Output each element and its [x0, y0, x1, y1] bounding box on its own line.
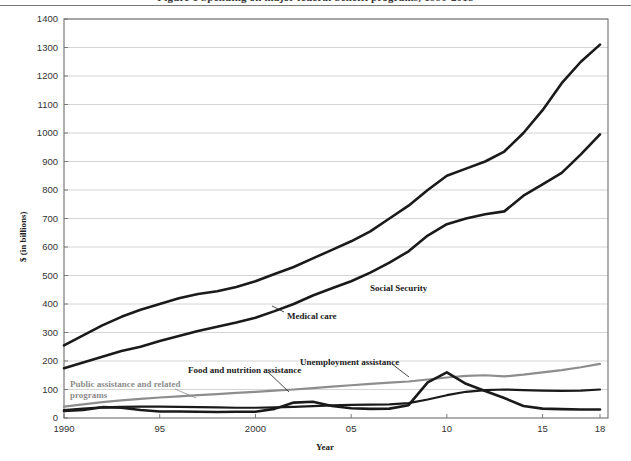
- y-tick-label: 200: [10, 355, 58, 366]
- x-tick-label: 1990: [39, 423, 89, 434]
- y-tick-label: 1000: [10, 127, 58, 138]
- series-line-1: [64, 134, 600, 368]
- x-tick-label: 10: [422, 423, 472, 434]
- series-annotation-3: Food and nutrition assistance: [188, 365, 308, 376]
- y-tick-label: 1200: [10, 70, 58, 81]
- y-tick-label: 100: [10, 384, 58, 395]
- chart-page: Figure 1 Spending on major federal benef…: [0, 0, 631, 461]
- series-line-0: [64, 45, 600, 346]
- x-axis-title: Year: [316, 442, 334, 452]
- x-tick-label: 15: [518, 423, 568, 434]
- y-tick-label: 1300: [10, 42, 58, 53]
- x-tick-label: 2000: [230, 423, 280, 434]
- x-tick-label: 95: [135, 423, 185, 434]
- y-tick-label: 900: [10, 156, 58, 167]
- series-annotation-1: Medical care: [287, 311, 337, 322]
- y-tick-label: 400: [10, 298, 58, 309]
- series-annotation-0: Social Security: [370, 283, 427, 294]
- y-tick-label: 1400: [10, 13, 58, 24]
- series-annotation-4: Public assistance and related programs: [70, 379, 190, 401]
- x-tick-label: 05: [326, 423, 376, 434]
- y-tick-label: 1100: [10, 99, 58, 110]
- x-tick-label: 18: [575, 423, 625, 434]
- y-tick-label: 0: [10, 412, 58, 423]
- y-axis-title: $ (in billions): [18, 211, 28, 262]
- y-tick-label: 800: [10, 184, 58, 195]
- y-tick-label: 300: [10, 327, 58, 338]
- series-annotation-2: Unemployment assistance: [300, 357, 399, 368]
- y-tick-label: 500: [10, 270, 58, 281]
